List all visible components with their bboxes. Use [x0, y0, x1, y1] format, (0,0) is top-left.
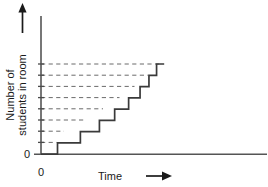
y-origin-label: 0	[24, 148, 30, 160]
x-origin-label: 0	[38, 166, 44, 178]
gridlines-group	[41, 64, 161, 142]
chart-figure: 0 0 Time Number of students in room	[0, 0, 268, 187]
step-chart-svg: 0 0 Time Number of students in room	[0, 0, 268, 187]
x-axis-label: Time	[98, 170, 122, 182]
axes-group	[34, 16, 267, 155]
x-axis-arrow-icon	[146, 172, 172, 181]
y-axis-label-line1: Number of	[4, 68, 16, 120]
y-axis-arrow-icon	[18, 3, 26, 33]
y-axis-label-line2: students in room	[16, 54, 28, 135]
